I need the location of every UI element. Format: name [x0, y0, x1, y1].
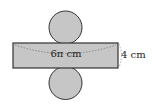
- height-label: 4 cm: [121, 49, 146, 60]
- bottom-circle: [49, 67, 82, 100]
- cylinder-net-diagram: 6π cm 4 cm: [0, 0, 152, 104]
- top-circle: [49, 11, 82, 44]
- length-label: 6π cm: [50, 48, 82, 59]
